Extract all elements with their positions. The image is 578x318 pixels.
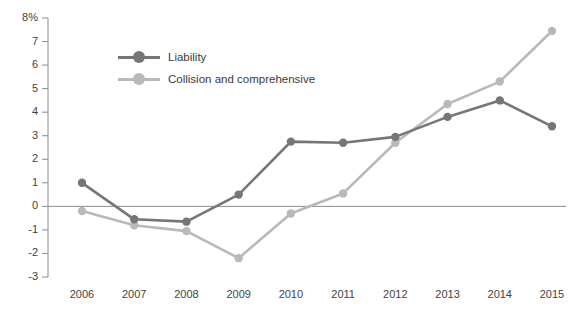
legend-label-liability: Liability [168, 51, 206, 63]
data-point-marker [182, 227, 190, 235]
x-axis-tick-label: 2010 [261, 288, 321, 300]
data-point-marker [78, 179, 86, 187]
data-point-marker [234, 190, 242, 198]
x-axis-tick-label: 2013 [418, 288, 478, 300]
x-axis-tick-label: 2015 [522, 288, 578, 300]
data-point-marker [443, 113, 451, 121]
chart-legend: Liability Collision and comprehensive [118, 46, 315, 90]
legend-swatch-liability [118, 51, 160, 63]
y-axis-tick-label: 5 [0, 82, 38, 94]
data-point-marker [287, 137, 295, 145]
data-point-marker [234, 254, 242, 262]
data-point-marker [78, 207, 86, 215]
y-tick-marks [42, 18, 48, 277]
x-axis-tick-label: 2006 [52, 288, 112, 300]
y-axis-tick-label: -1 [0, 223, 38, 235]
y-axis-tick-label: 6 [0, 58, 38, 70]
legend-marker-icon [133, 51, 145, 63]
legend-swatch-collision [118, 73, 160, 85]
data-point-marker [339, 139, 347, 147]
data-point-marker [287, 209, 295, 217]
data-point-marker [182, 217, 190, 225]
data-point-marker [548, 27, 556, 35]
data-point-marker [391, 133, 399, 141]
legend-marker-icon [133, 73, 145, 85]
data-point-marker [339, 189, 347, 197]
legend-item-collision: Collision and comprehensive [118, 68, 315, 90]
x-axis-tick-label: 2007 [104, 288, 164, 300]
y-axis-tick-label: 3 [0, 129, 38, 141]
data-point-marker [496, 77, 504, 85]
data-point-marker [548, 122, 556, 130]
y-axis-tick-label: 8% [0, 11, 38, 23]
x-axis-tick-label: 2014 [470, 288, 530, 300]
data-point-marker [130, 215, 138, 223]
legend-label-collision: Collision and comprehensive [168, 73, 315, 85]
chart-container: 8%76543210-1-2-3 20062007200820092010201… [0, 0, 578, 318]
data-point-marker [443, 100, 451, 108]
y-axis-tick-label: -3 [0, 270, 38, 282]
y-axis-tick-label: 1 [0, 176, 38, 188]
y-axis-tick-label: 7 [0, 35, 38, 47]
x-axis-tick-label: 2008 [156, 288, 216, 300]
x-axis-tick-label: 2012 [365, 288, 425, 300]
data-point-marker [496, 96, 504, 104]
x-axis-tick-label: 2011 [313, 288, 373, 300]
x-axis-tick-label: 2009 [209, 288, 269, 300]
y-axis-tick-label: 0 [0, 199, 38, 211]
y-axis-tick-label: 4 [0, 105, 38, 117]
y-axis-tick-label: 2 [0, 152, 38, 164]
y-axis-tick-label: -2 [0, 246, 38, 258]
legend-item-liability: Liability [118, 46, 315, 68]
